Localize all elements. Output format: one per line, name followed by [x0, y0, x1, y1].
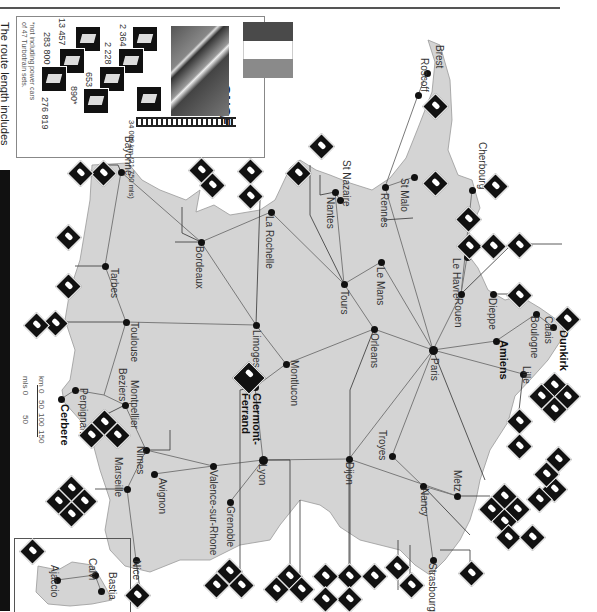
city-dot-grenoble: [227, 499, 234, 506]
city-label-strasbourg: Strasbourg: [427, 563, 438, 612]
city-label-bordeaux: Bordeaux: [194, 246, 205, 289]
city-dot-valence: [210, 463, 217, 470]
city-label-ajaccio: Ajaccio: [49, 565, 60, 597]
city-label-rennes: Rennes: [379, 193, 390, 227]
city-label-la-rochelle: La Rochelle: [264, 216, 275, 269]
city-dot-la-rochelle: [268, 209, 275, 216]
city-dot-nantes: [332, 189, 339, 196]
caption-text: The route length includes: [0, 22, 11, 146]
footnote-line-2: of 47 Turbotrain sets.: [21, 22, 28, 88]
city-dot-rennes: [382, 184, 389, 191]
city-label-st-nazaire: St Nazaire: [341, 160, 352, 207]
city-label-le-mans: Le Mans: [375, 267, 386, 305]
electric-locomotive-icon: [136, 86, 162, 112]
flag-stripe-blue: [243, 22, 293, 41]
city-label-avignon: Avignon: [157, 478, 168, 514]
stat-value: 283 800: [42, 32, 52, 65]
city-dot-dieppe: [490, 291, 497, 298]
track-icon: [136, 117, 236, 127]
city-label-metz: Metz: [452, 470, 463, 492]
stat-value: 653: [84, 72, 94, 87]
city-dot-avignon: [151, 471, 158, 478]
city-label-rouen: Rouen: [453, 298, 464, 327]
city-label-boulogne: Boulogne: [529, 316, 540, 358]
city-label-troyes: Troyes: [377, 430, 388, 460]
stat-value: 2 228: [103, 42, 113, 65]
staff-icon: [41, 66, 67, 92]
scale-mls-tick: 50: [21, 415, 30, 424]
city-label-le-havre: Le Havre: [451, 258, 462, 299]
city-label-st-malo: St Malo: [399, 178, 410, 212]
flag-stripe-red: [243, 59, 293, 78]
stat-value: 2 364: [118, 24, 128, 47]
city-label-tarbes: Tarbes: [109, 268, 120, 298]
city-label-calais: Calais: [543, 316, 554, 344]
city-label-nice: Nice: [131, 560, 142, 580]
scale-mls-label: mls 0: [21, 376, 30, 395]
city-label-roscoff: Roscoff: [419, 58, 430, 92]
city-dot-roscoff: [415, 92, 422, 99]
turbotrain-icon: [83, 88, 109, 114]
city-label-clermont-ferrand: Clermont-Ferrand: [240, 393, 262, 453]
city-dot-st-malo: [411, 174, 418, 181]
city-label-orleans: Orleans: [369, 333, 380, 368]
city-label-brest: Brest: [434, 45, 445, 68]
city-dot-bastia: [98, 588, 105, 595]
city-dot-bordeaux: [198, 239, 205, 246]
city-label-montlucon: Montlucon: [289, 360, 300, 406]
stat-value: 13 457: [57, 18, 67, 46]
scale-km-tick: 150: [37, 430, 46, 443]
city-label-amiens: Amiens: [498, 340, 510, 380]
stat-value: 276 819: [40, 97, 50, 130]
city-dot-orleans: [371, 326, 378, 333]
city-label-paris: Paris: [429, 358, 440, 381]
city-dot-le-mans: [378, 259, 385, 266]
city-label-marseille: Marseille: [113, 457, 124, 497]
city-label-dijon: Dijon: [344, 462, 355, 485]
stat-value: 890*: [69, 86, 79, 105]
scale-km-label: km 0: [37, 376, 46, 393]
city-dot-metz: [454, 493, 461, 500]
french-flag: [243, 22, 293, 78]
city-dot-cherbourg: [469, 187, 476, 194]
city-label-bastia: Bastia: [107, 572, 118, 600]
city-label-lille: Lille: [521, 366, 532, 384]
city-dot-paris: [429, 346, 438, 355]
city-dot-tarbes: [102, 263, 109, 270]
city-label-lyon: Lyon: [257, 464, 268, 485]
city-label-grenoble: Grenoble: [225, 506, 236, 547]
city-label-limoges: Limoges: [251, 330, 262, 368]
city-label-dunkirk: Dunkirk: [558, 330, 570, 371]
flag-stripe-white: [243, 41, 293, 60]
city-dot-limoges: [253, 322, 260, 329]
city-label-bayonne: Bayonne: [123, 136, 134, 175]
city-label-dieppe: Dieppe: [487, 298, 498, 330]
city-label-valence: Valence-sur-Rhone: [208, 470, 219, 555]
city-label-nantes: Nantes: [325, 197, 336, 229]
city-dot-troyes: [389, 453, 396, 460]
city-label-nimes: Nimes: [135, 446, 146, 474]
city-label-montpellier: Montpellier: [129, 380, 140, 429]
city-dot-montpellier: [122, 402, 129, 409]
city-label-nancy: Nancy: [419, 488, 430, 516]
footnote-line-1: *not including power cars: [29, 22, 36, 100]
city-dot-tours: [341, 281, 348, 288]
city-label-cerbere: Cerbere: [59, 404, 71, 446]
city-label-toulouse: Toulouse: [129, 322, 140, 362]
scale-km-tick: 100: [37, 413, 46, 426]
city-dot-marseille: [124, 486, 131, 493]
city-dot-cerbere: [58, 396, 65, 403]
city-label-calvi: Calvi: [87, 558, 98, 580]
city-label-beziers: Beziers: [117, 368, 128, 401]
train-photo: [171, 26, 229, 116]
city-label-tours: Tours: [339, 290, 350, 314]
scale-km-tick: 50: [37, 400, 46, 409]
